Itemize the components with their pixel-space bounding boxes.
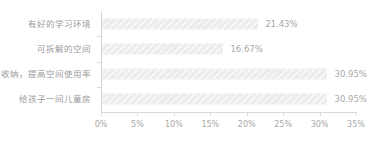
x-axis-tick — [320, 112, 321, 116]
x-axis-tick — [356, 112, 357, 116]
y-axis-tick — [97, 36, 101, 37]
x-axis-tick — [210, 112, 211, 116]
x-axis-tick — [101, 112, 102, 116]
bar — [102, 43, 223, 54]
x-axis-tick-label: 15% — [201, 120, 219, 130]
bar-row: 给孩子一间儿童房30.95% — [101, 87, 356, 112]
x-axis-tick — [283, 112, 284, 116]
bar-row: 有收纳，提高空间使用率30.95% — [101, 62, 356, 87]
y-axis-tick — [97, 62, 101, 63]
x-axis-tick — [137, 112, 138, 116]
x-axis-tick-label: 5% — [131, 120, 144, 130]
category-label: 可拆解的空间 — [37, 43, 91, 54]
bar-row: 可拆解的空间16.67% — [101, 36, 356, 61]
bar-value-label: 21.43% — [265, 18, 297, 29]
x-axis-tick-label: 30% — [311, 120, 329, 130]
category-label: 有收纳，提高空间使用率 — [0, 69, 91, 80]
bar — [102, 94, 327, 105]
bar-row: 有好的学习环境21.43% — [101, 11, 356, 36]
bar — [102, 69, 327, 80]
x-axis-tick — [247, 112, 248, 116]
bar-value-label: 30.95% — [334, 94, 366, 105]
bar-value-label: 16.67% — [230, 43, 262, 54]
x-axis-tick-label: 0% — [95, 120, 108, 130]
bar — [102, 18, 258, 29]
plot-area: 有好的学习环境21.43%可拆解的空间16.67%有收纳，提高空间使用率30.9… — [101, 11, 356, 112]
x-axis-tick-label: 10% — [165, 120, 183, 130]
bar-value-label: 30.95% — [334, 69, 366, 80]
x-axis-tick-label: 35% — [347, 120, 365, 130]
x-axis-tick — [174, 112, 175, 116]
y-axis-tick — [97, 87, 101, 88]
category-label: 给孩子一间儿童房 — [19, 94, 91, 105]
x-axis-tick-label: 20% — [238, 120, 256, 130]
bar-chart: 有好的学习环境21.43%可拆解的空间16.67%有收纳，提高空间使用率30.9… — [0, 0, 375, 145]
category-label: 有好的学习环境 — [28, 18, 91, 29]
x-axis-tick-label: 25% — [274, 120, 292, 130]
